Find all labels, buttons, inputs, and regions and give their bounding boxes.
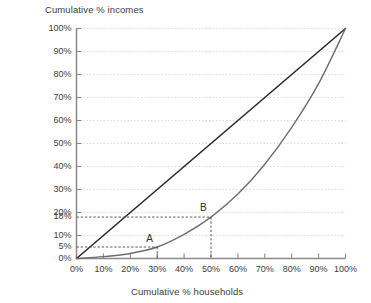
y-axis-tick-label: 30% <box>38 184 72 194</box>
x-axis-tick-label: 100% <box>331 264 361 274</box>
y-axis-tick-label: 100% <box>38 23 72 33</box>
y-axis-tick-label: 0% <box>38 253 72 263</box>
x-axis-tick-label: 60% <box>223 264 253 274</box>
x-axis-tick-label: 90% <box>304 264 334 274</box>
y-axis-tick-label: 60% <box>38 115 72 125</box>
lorenz-curve-chart: Cumulative % incomes Cumulative % househ… <box>0 0 371 303</box>
y-axis-tick-label: 50% <box>38 138 72 148</box>
y-axis-highlight-label: 5% <box>38 241 72 251</box>
y-axis-highlight-label: 18% <box>38 211 72 221</box>
data-point-label-B: B <box>200 202 207 213</box>
x-axis-tick-label: 30% <box>142 264 172 274</box>
x-axis-tick-label: 80% <box>277 264 307 274</box>
x-axis-tick-label: 70% <box>250 264 280 274</box>
y-axis-tick-label: 40% <box>38 161 72 171</box>
x-axis-tick-label: 10% <box>88 264 118 274</box>
x-axis-tick-label: 20% <box>115 264 145 274</box>
x-axis-tick-label: 50% <box>196 264 226 274</box>
x-axis-tick-label: 0% <box>62 264 92 274</box>
y-axis-tick-label: 80% <box>38 69 72 79</box>
data-point-label-A: A <box>146 233 153 244</box>
y-axis-tick-label: 10% <box>38 230 72 240</box>
x-axis-tick-label: 40% <box>169 264 199 274</box>
y-axis-tick-label: 90% <box>38 46 72 56</box>
y-axis-tick-label: 70% <box>38 92 72 102</box>
